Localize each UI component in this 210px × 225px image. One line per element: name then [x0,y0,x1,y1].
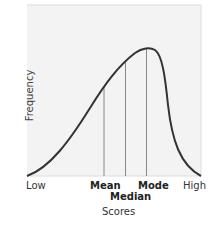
y-axis-label: Frequency [24,70,35,122]
skewed-distribution-chart: Frequency Low Mean Mode High Median Scor… [0,0,210,225]
x-tick-median: Median [110,191,151,202]
x-tick-mean: Mean [90,180,121,191]
x-tick-mode: Mode [138,180,169,191]
x-axis-label: Scores [102,206,135,217]
plot-area [27,5,201,176]
x-tick-high: High [183,180,206,191]
x-tick-low: Low [26,180,46,191]
